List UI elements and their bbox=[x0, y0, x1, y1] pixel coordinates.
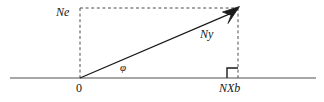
diagram-canvas bbox=[0, 0, 324, 102]
label-origin: 0 bbox=[76, 82, 82, 94]
label-vector: Ny bbox=[200, 28, 213, 40]
right-angle-marker bbox=[227, 68, 238, 78]
vector-arrow-shaft bbox=[80, 13, 232, 78]
label-horizontal-component: NXb bbox=[219, 82, 240, 94]
label-vertical-component: Ne bbox=[56, 6, 69, 18]
vector-diagram: Ne Ny φ 0 NXb bbox=[0, 0, 324, 102]
vector-arrowhead bbox=[223, 7, 240, 24]
label-angle-phi: φ bbox=[120, 62, 126, 73]
